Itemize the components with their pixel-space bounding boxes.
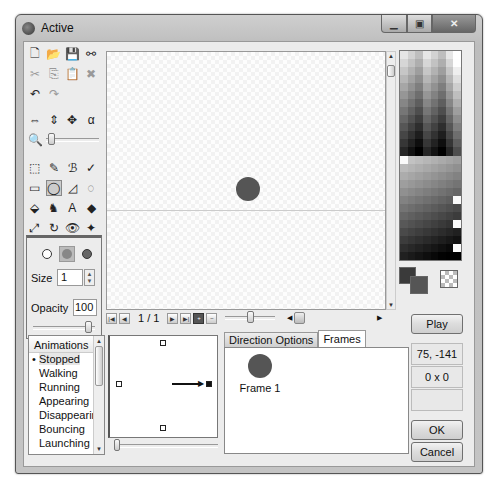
resize-icon[interactable]: ⤢	[27, 220, 43, 236]
flip-horizontal-icon[interactable]: ⇔	[27, 112, 43, 128]
palette-color[interactable]	[453, 252, 461, 260]
palette-color[interactable]	[453, 123, 461, 131]
delete-icon[interactable]: ✖	[83, 66, 99, 82]
palette-color[interactable]	[438, 156, 446, 164]
palette-color[interactable]	[400, 188, 408, 196]
palette-color[interactable]	[415, 188, 423, 196]
palette-color[interactable]	[423, 115, 431, 123]
eraser-icon[interactable]: ◆	[83, 200, 99, 216]
palette-color[interactable]	[423, 156, 431, 164]
hotspot-icon[interactable]: ✦	[83, 220, 99, 236]
palette-color[interactable]	[423, 139, 431, 147]
direction-handle-up[interactable]	[160, 340, 166, 346]
palette-color[interactable]	[408, 123, 416, 131]
save-icon[interactable]: 💾	[65, 46, 81, 62]
palette-color[interactable]	[431, 131, 439, 139]
palette-color[interactable]	[400, 180, 408, 188]
palette-color[interactable]	[408, 196, 416, 204]
add-frame-button[interactable]: +	[193, 313, 204, 324]
palette-color[interactable]	[408, 228, 416, 236]
palette-color[interactable]	[438, 164, 446, 172]
palette-color[interactable]	[446, 156, 454, 164]
polygon-icon[interactable]: ◿	[65, 180, 81, 196]
cut-icon[interactable]: ✂	[27, 66, 43, 82]
move-icon[interactable]: ✥	[65, 112, 81, 128]
palette-color[interactable]	[438, 236, 446, 244]
palette-color[interactable]	[453, 220, 461, 228]
palette-color[interactable]	[431, 139, 439, 147]
palette-color[interactable]	[438, 147, 446, 155]
alpha-icon[interactable]: α	[83, 112, 99, 128]
palette-color[interactable]	[431, 51, 439, 59]
direction-speed-slider[interactable]	[114, 444, 218, 448]
palette-color[interactable]	[400, 67, 408, 75]
maximize-button[interactable]: ▣	[407, 15, 432, 33]
palette-color[interactable]	[408, 67, 416, 75]
palette-color[interactable]	[438, 204, 446, 212]
palette-color[interactable]	[438, 196, 446, 204]
palette-color[interactable]	[408, 51, 416, 59]
palette-color[interactable]	[408, 115, 416, 123]
palette-color[interactable]	[400, 115, 408, 123]
palette-color[interactable]	[446, 172, 454, 180]
palette-color[interactable]	[408, 180, 416, 188]
palette-color[interactable]	[453, 115, 461, 123]
palette-color[interactable]	[431, 99, 439, 107]
paste-icon[interactable]: 📋	[65, 66, 81, 82]
palette-color[interactable]	[438, 228, 446, 236]
palette-color[interactable]	[415, 156, 423, 164]
lasso-icon[interactable]: ◌	[83, 180, 99, 196]
palette-color[interactable]	[400, 156, 408, 164]
palette-color[interactable]	[453, 75, 461, 83]
opacity-slider[interactable]	[33, 326, 95, 330]
palette-color[interactable]	[400, 252, 408, 260]
palette-color[interactable]	[446, 196, 454, 204]
direction-handle-down[interactable]	[160, 425, 166, 431]
palette-color[interactable]	[423, 244, 431, 252]
palette-color[interactable]	[408, 99, 416, 107]
palette-color[interactable]	[400, 228, 408, 236]
brush-shape-outline[interactable]	[39, 246, 55, 262]
palette-color[interactable]	[453, 99, 461, 107]
palette-color[interactable]	[415, 180, 423, 188]
tab-frames[interactable]: Frames	[318, 330, 365, 348]
palette-color[interactable]	[446, 164, 454, 172]
next-frame-button[interactable]: ▶	[167, 313, 178, 324]
palette-color[interactable]	[453, 172, 461, 180]
clone-icon[interactable]: ♞	[46, 200, 62, 216]
palette-color[interactable]	[423, 83, 431, 91]
palette-color[interactable]	[423, 204, 431, 212]
palette-color[interactable]	[438, 131, 446, 139]
redo-icon[interactable]: ↷	[46, 86, 62, 102]
palette-color[interactable]	[415, 244, 423, 252]
palette-color[interactable]	[438, 244, 446, 252]
palette-color[interactable]	[438, 67, 446, 75]
palette-color[interactable]	[415, 212, 423, 220]
palette-color[interactable]	[415, 236, 423, 244]
palette-color[interactable]	[400, 220, 408, 228]
palette-color[interactable]	[446, 123, 454, 131]
palette-color[interactable]	[423, 180, 431, 188]
palette-color[interactable]	[453, 188, 461, 196]
palette-color[interactable]	[431, 172, 439, 180]
palette-color[interactable]	[431, 164, 439, 172]
open-folder-icon[interactable]: 📂	[46, 46, 62, 62]
palette-color[interactable]	[423, 91, 431, 99]
palette-color[interactable]	[453, 131, 461, 139]
palette-color[interactable]	[431, 75, 439, 83]
palette-color[interactable]	[431, 212, 439, 220]
tab-direction-options[interactable]: Direction Options	[224, 332, 318, 348]
brush-shape-solid[interactable]	[79, 246, 95, 262]
palette-color[interactable]	[400, 51, 408, 59]
palette-color[interactable]	[431, 228, 439, 236]
palette-color[interactable]	[453, 204, 461, 212]
palette-color[interactable]	[423, 67, 431, 75]
palette-color[interactable]	[446, 107, 454, 115]
palette-color[interactable]	[453, 156, 461, 164]
palette-color[interactable]	[453, 91, 461, 99]
palette-color[interactable]	[423, 107, 431, 115]
palette-color[interactable]	[423, 131, 431, 139]
palette-color[interactable]	[423, 212, 431, 220]
palette-color[interactable]	[446, 220, 454, 228]
minimize-button[interactable]: ▁	[381, 15, 407, 33]
